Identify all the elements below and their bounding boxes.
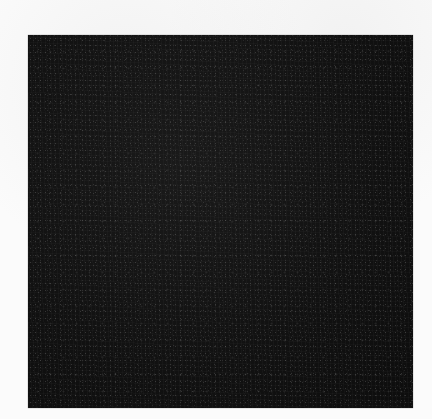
swatch-label: Black textured swatch (28, 35, 29, 36)
black-textured-swatch: Black textured swatch (28, 35, 413, 408)
